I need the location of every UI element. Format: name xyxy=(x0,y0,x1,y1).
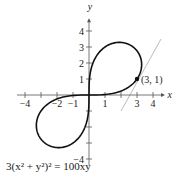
x-tick-label: 4 xyxy=(151,98,156,109)
y-axis-label: y xyxy=(87,1,93,12)
point-label: (3, 1) xyxy=(141,74,163,86)
y-tick-label: 4 xyxy=(79,26,84,37)
x-tick-label: −1 xyxy=(68,98,79,109)
x-tick-label: 1 xyxy=(103,98,108,109)
x-tick-label: 3 xyxy=(135,98,140,109)
x-arrow-icon xyxy=(161,93,165,97)
y-tick-label: 1 xyxy=(79,74,84,85)
x-tick-label: −4 xyxy=(20,98,31,109)
y-tick-label: 3 xyxy=(79,42,84,53)
x-axis-label: x xyxy=(166,89,172,100)
equation-label: 3(x² + y²)² = 100xy xyxy=(6,160,91,172)
y-arrow-icon xyxy=(87,18,91,22)
point-marker xyxy=(135,77,139,81)
y-tick-label: 2 xyxy=(79,58,84,69)
